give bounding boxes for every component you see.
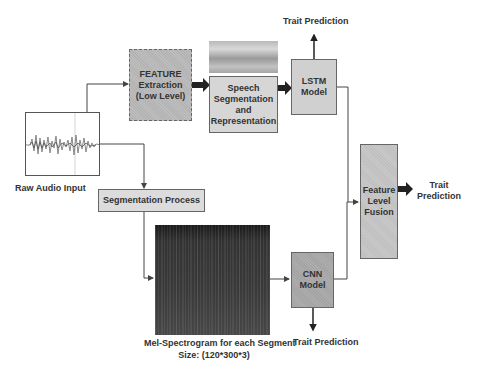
feature-extraction-line3: (Low Level) (136, 91, 186, 102)
cnn-model-box: CNN Model (291, 252, 334, 308)
lstm-line2: Model (301, 87, 327, 98)
segmentation-process-box: Segmentation Process (98, 189, 205, 212)
feature-extraction-line1: FEATURE (136, 69, 186, 80)
feature-extraction-box: FEATURE Extraction (Low Level) (129, 49, 192, 121)
mel-spectrogram-caption-line2: Size: (120*300*3) (144, 350, 284, 361)
fusion-line3: Fusion (363, 207, 396, 218)
speech-segmentation-line3: and (211, 105, 277, 116)
mel-spectrogram-caption-line1: Mel-Spectrogram for each Segment (144, 338, 284, 349)
raw-audio-waveform (25, 112, 100, 176)
cnn-trait-prediction-label: Trait Prediction (293, 337, 359, 348)
lstm-model-box: LSTM Model (291, 59, 337, 115)
feature-extraction-line2: Extraction (136, 80, 186, 91)
fusion-line2: Level (363, 196, 396, 207)
lstm-line1: LSTM (301, 76, 327, 87)
fusion-trait-label-line2: Prediction (416, 191, 462, 202)
speech-spectrogram-image (209, 41, 278, 73)
waveform-icon (26, 113, 100, 176)
cnn-line1: CNN (300, 269, 326, 280)
thick-arrow-feature-to-speech (191, 78, 210, 92)
mel-spectrogram-image (155, 225, 270, 335)
raw-audio-label: Raw Audio Input (15, 183, 86, 194)
segmentation-process-label: Segmentation Process (103, 195, 200, 206)
cnn-to-fusion-line (334, 202, 358, 279)
speech-segmentation-line4: Representation (211, 116, 277, 127)
speech-segmentation-box: Speech Segmentation and Representation (209, 76, 278, 133)
thick-arrow-fusion-to-output (398, 182, 413, 196)
cnn-line2: Model (300, 280, 326, 291)
feature-level-fusion-box: Feature Level Fusion (360, 144, 398, 259)
segmentation-to-spectrogram-line (144, 212, 153, 278)
speech-segmentation-line1: Speech (211, 83, 277, 94)
fusion-trait-label-line1: Trait (416, 180, 462, 191)
audio-to-feature-line (87, 84, 128, 112)
fusion-line1: Feature (363, 185, 396, 196)
thick-arrow-speech-to-lstm (278, 81, 292, 95)
lstm-trait-prediction-label: Trait Prediction (283, 16, 349, 27)
lstm-to-fusion-line (337, 87, 348, 202)
audio-to-segmentation-line (100, 144, 144, 188)
speech-segmentation-line2: Segmentation (211, 94, 277, 105)
